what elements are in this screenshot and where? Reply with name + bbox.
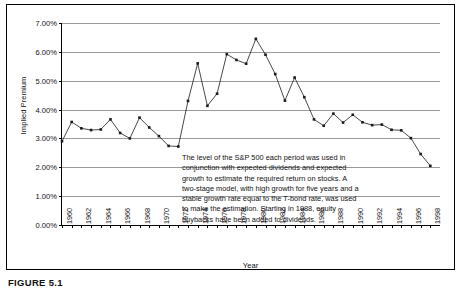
x-tick-mark (382, 225, 383, 228)
x-tick-mark (430, 225, 431, 228)
data-point-marker (381, 123, 384, 126)
data-point-marker (342, 121, 345, 124)
x-tick-mark (198, 225, 199, 228)
x-tick-mark (314, 225, 315, 228)
data-point-marker (332, 112, 335, 115)
x-tick-mark (324, 225, 325, 228)
x-tick-mark (217, 225, 218, 228)
x-tick-mark (256, 225, 257, 228)
x-tick-mark (333, 225, 334, 228)
x-tick-mark (140, 225, 141, 228)
data-point-marker (109, 118, 112, 121)
data-point-marker (216, 92, 219, 95)
data-point-marker (274, 73, 277, 76)
data-point-marker (419, 153, 422, 156)
data-point-marker (206, 105, 209, 108)
data-point-marker (371, 124, 374, 127)
data-point-marker (410, 137, 413, 140)
x-tick-mark (236, 225, 237, 228)
x-tick-mark (392, 225, 393, 228)
data-point-marker (148, 126, 151, 129)
y-tick-label: 0.00% (35, 221, 57, 230)
x-tick-mark (207, 225, 208, 228)
x-tick-mark (275, 225, 276, 228)
chart-frame: Implied Premium 0.00%1.00%2.00%3.00%4.00… (6, 4, 455, 270)
x-tick-mark (178, 225, 179, 228)
data-point-marker (264, 53, 267, 56)
data-point-marker (187, 100, 190, 103)
x-tick-mark (81, 225, 82, 228)
data-point-marker (255, 38, 258, 41)
data-point-marker (400, 129, 403, 132)
data-point-marker (90, 129, 93, 132)
data-point-marker (61, 140, 64, 143)
data-point-marker (313, 118, 316, 121)
data-point-marker (293, 76, 296, 79)
data-point-marker (303, 96, 306, 99)
x-tick-mark (101, 225, 102, 228)
x-tick-mark (304, 225, 305, 228)
x-tick-mark (227, 225, 228, 228)
x-tick-mark (159, 225, 160, 228)
x-tick-mark (188, 225, 189, 228)
data-point-marker (361, 121, 364, 124)
data-point-marker (70, 121, 73, 124)
y-tick-label: 1.00% (35, 192, 57, 201)
data-point-marker (322, 124, 325, 127)
data-point-marker (225, 53, 228, 56)
x-tick-mark (91, 225, 92, 228)
x-tick-mark (285, 225, 286, 228)
data-point-marker (245, 62, 248, 65)
figure-container: Implied Premium 0.00%1.00%2.00%3.00%4.00… (0, 0, 463, 290)
x-tick-mark (362, 225, 363, 228)
data-point-marker (167, 145, 170, 148)
data-point-marker (235, 59, 238, 62)
x-tick-mark (62, 225, 63, 228)
data-point-marker (138, 116, 141, 119)
x-tick-mark (295, 225, 296, 228)
x-tick-mark (411, 225, 412, 228)
x-tick-mark (353, 225, 354, 228)
x-tick-mark (130, 225, 131, 228)
x-tick-mark (169, 225, 170, 228)
data-point-marker (80, 127, 83, 130)
figure-caption: FIGURE 5.1 (8, 277, 63, 288)
data-point-marker (99, 128, 102, 131)
x-tick-mark (421, 225, 422, 228)
data-point-marker (351, 113, 354, 116)
x-tick-mark (110, 225, 111, 228)
data-point-marker (129, 137, 132, 140)
y-tick-label: 4.00% (35, 105, 57, 114)
x-tick-mark (343, 225, 344, 228)
x-tick-mark (246, 225, 247, 228)
x-tick-mark (372, 225, 373, 228)
y-tick-label: 7.00% (35, 19, 57, 28)
x-tick-mark (266, 225, 267, 228)
y-tick-label: 5.00% (35, 76, 57, 85)
series-polyline (62, 39, 430, 166)
y-tick-label: 2.00% (35, 163, 57, 172)
data-point-marker (158, 135, 161, 138)
x-tick-mark (120, 225, 121, 228)
data-point-marker (119, 132, 122, 135)
data-point-marker (177, 145, 180, 148)
y-axis-title: Implied Premium (19, 46, 28, 166)
data-point-marker (390, 128, 393, 131)
y-tick-label: 3.00% (35, 134, 57, 143)
x-tick-mark (149, 225, 150, 228)
x-tick-mark (401, 225, 402, 228)
data-point-marker (429, 165, 432, 168)
x-tick-mark (72, 225, 73, 228)
data-point-marker (284, 99, 287, 102)
chart-annotation-text: The level of the S&P 500 each period was… (182, 153, 410, 225)
y-tick-label: 6.00% (35, 47, 57, 56)
data-point-marker (196, 62, 199, 65)
x-axis-title: Year (61, 261, 440, 270)
